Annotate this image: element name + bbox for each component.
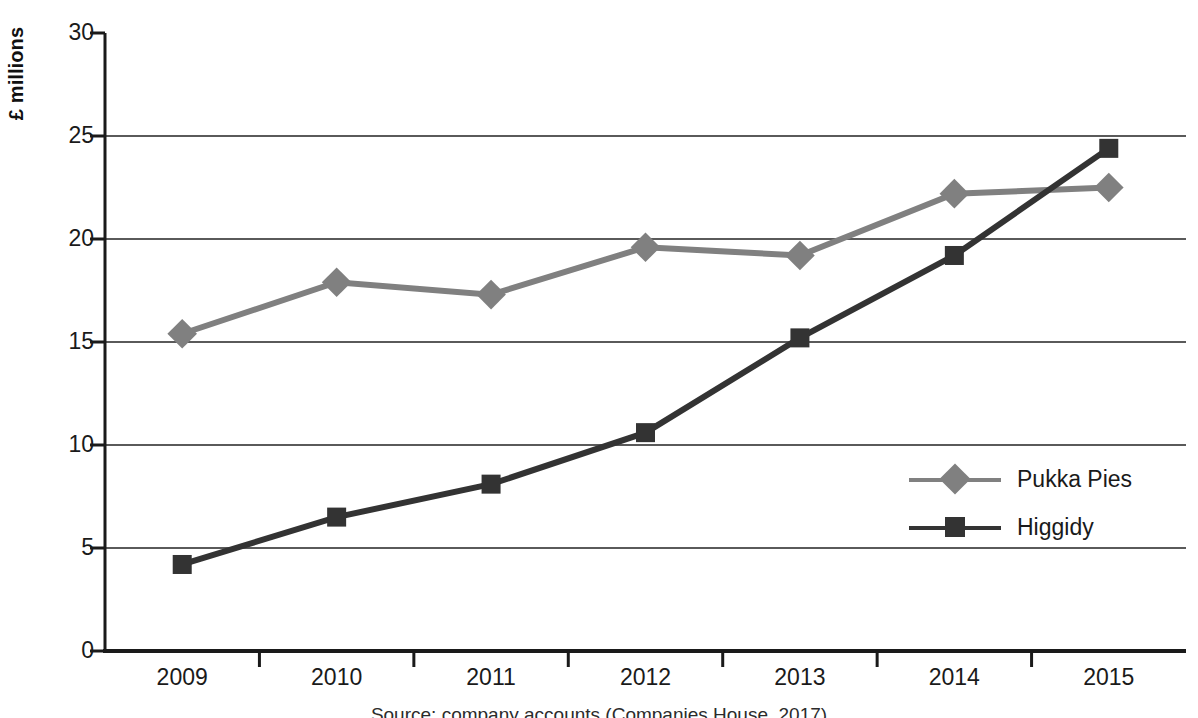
legend-item[interactable]: Higgidy: [905, 503, 1185, 551]
data-point-marker-square: [327, 508, 346, 527]
data-point-marker-diamond: [167, 319, 197, 349]
legend-key-square-icon: [905, 512, 1005, 542]
legend-label: Higgidy: [1005, 514, 1094, 541]
legend-item[interactable]: Pukka Pies: [905, 455, 1185, 503]
data-point-marker-square: [945, 246, 964, 265]
legend-key-marker-diamond-icon: [939, 463, 970, 494]
data-point-marker-diamond: [785, 241, 815, 271]
data-point-marker-square: [173, 555, 192, 574]
data-point-marker-diamond: [476, 280, 506, 310]
data-point-marker-square: [482, 475, 501, 494]
data-point-marker-diamond: [940, 179, 970, 209]
legend-key-diamond-icon: [905, 464, 1005, 494]
data-point-marker-diamond: [631, 232, 661, 262]
plot-area: [0, 0, 1198, 718]
data-point-marker-square: [790, 328, 809, 347]
data-point-marker-diamond: [1094, 173, 1124, 203]
legend: Pukka PiesHiggidy: [905, 455, 1185, 551]
axis-tick-marks: [90, 33, 1032, 667]
legend-key-marker-square-icon: [945, 517, 965, 537]
source-note: Source: company accounts (Companies Hous…: [0, 704, 1198, 718]
data-point-marker-square: [636, 423, 655, 442]
data-point-marker-diamond: [322, 267, 352, 297]
series-pukka-pies: [167, 173, 1123, 349]
line-chart: £ millions 302520151050 2009201020112012…: [0, 0, 1198, 718]
data-point-marker-square: [1099, 139, 1118, 158]
legend-label: Pukka Pies: [1005, 466, 1132, 493]
